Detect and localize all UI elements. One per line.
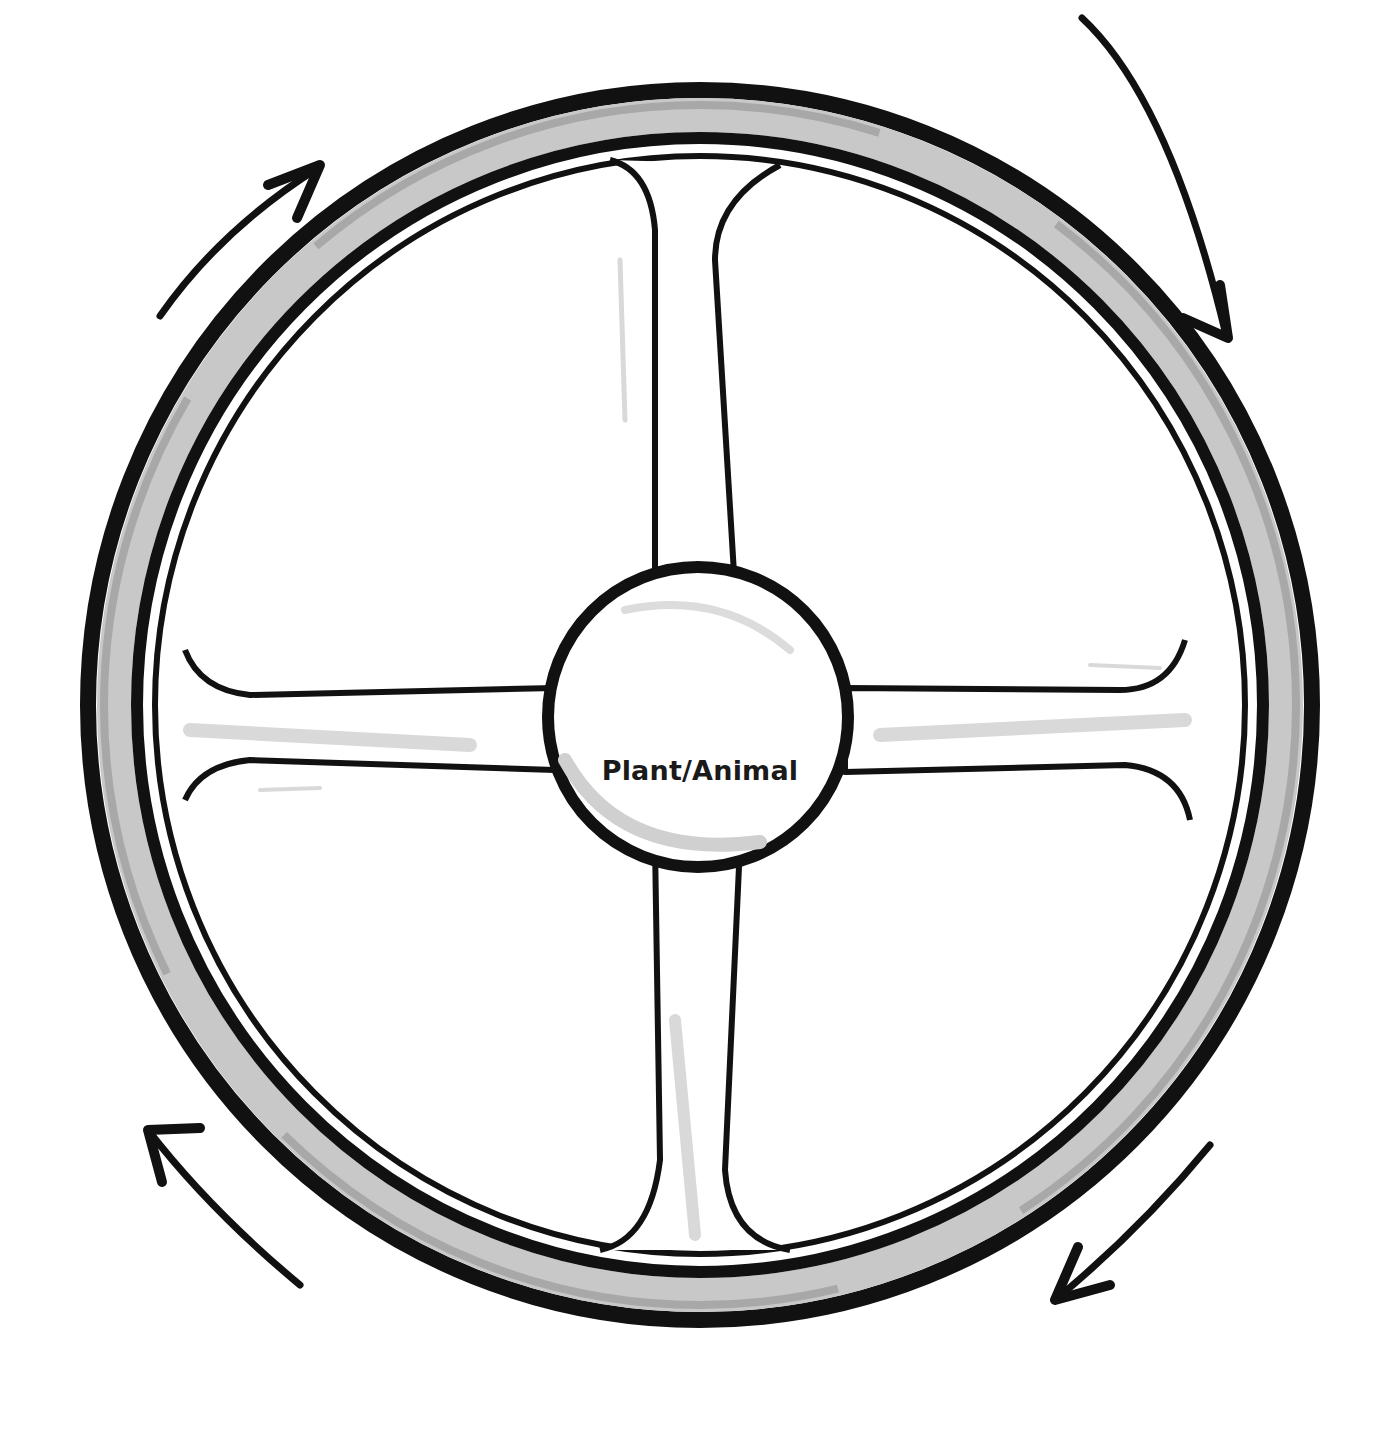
spoke-left [185, 650, 555, 800]
wheel-diagram [0, 0, 1373, 1440]
spoke-top [610, 160, 780, 590]
center-label: Plant/Animal [550, 755, 850, 786]
center-hub [548, 567, 848, 867]
